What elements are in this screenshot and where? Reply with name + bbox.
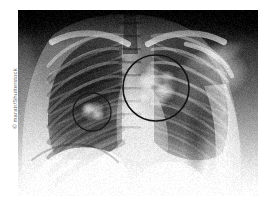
chest-xray-image: [18, 10, 258, 196]
chest-xray-figure: [18, 10, 258, 196]
image-credit: © maratr/Shutterstock: [0, 0, 18, 207]
